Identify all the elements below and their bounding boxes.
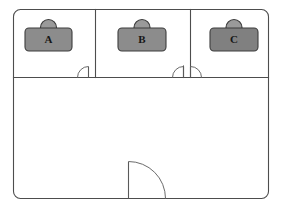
floor-plan-diagram: A B C	[0, 0, 281, 208]
desk-b-label: B	[138, 33, 146, 45]
desk-a-label: A	[45, 33, 53, 45]
room-common-area	[13, 77, 269, 199]
desk-c-label: C	[230, 33, 238, 45]
floor-plan-canvas: A B C	[0, 0, 281, 208]
